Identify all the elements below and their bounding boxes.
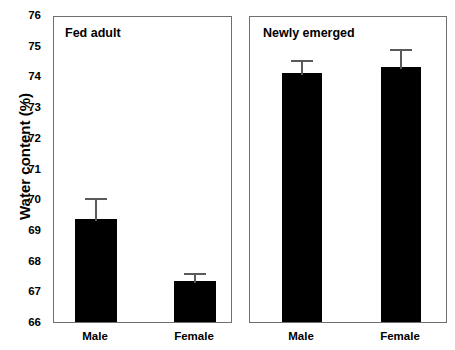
error-bar-stem <box>95 198 97 221</box>
figure: Water content (%) 6667686970717273747576… <box>0 0 455 350</box>
error-bar-cap <box>390 49 412 51</box>
y-axis-tick-labels: 6667686970717273747576 <box>10 0 41 350</box>
bar <box>381 67 421 322</box>
y-tick-label: 76 <box>15 10 41 22</box>
panel-fed-adult: Fed adult <box>53 16 232 323</box>
y-tick-label: 66 <box>15 317 41 329</box>
y-tick-label: 74 <box>15 71 41 83</box>
error-bar-stem <box>301 60 303 75</box>
bar <box>75 219 117 322</box>
bar <box>282 73 322 322</box>
y-tick-label: 73 <box>15 102 41 114</box>
y-tick-label: 75 <box>15 41 41 53</box>
y-tick-label: 67 <box>15 286 41 298</box>
panel-newly-emerged: Newly emerged <box>249 16 447 323</box>
x-tick-label: Male <box>288 330 314 342</box>
y-tick-label: 71 <box>15 164 41 176</box>
error-bar-cap <box>291 60 313 62</box>
y-tick-label: 69 <box>15 225 41 237</box>
error-bar-cap <box>85 198 107 200</box>
plot-area-newly-emerged <box>250 17 446 322</box>
plot-area-fed-adult <box>54 17 231 322</box>
error-bar-stem <box>400 49 402 69</box>
x-tick-label: Male <box>82 330 108 342</box>
x-tick-label: Female <box>380 330 420 342</box>
bar <box>174 281 216 322</box>
error-bar-cap <box>184 273 206 275</box>
y-tick-label: 68 <box>15 256 41 268</box>
x-tick-label: Female <box>174 330 214 342</box>
y-tick-label: 70 <box>15 194 41 206</box>
y-tick-label: 72 <box>15 133 41 145</box>
x-axis-tick-labels: MaleFemaleMaleFemale <box>0 330 455 348</box>
